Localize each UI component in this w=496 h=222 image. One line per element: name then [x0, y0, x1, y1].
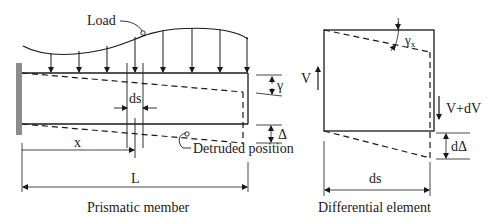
gamma-x-subscript: x: [411, 39, 416, 49]
gamma-x-angle-marker: [391, 18, 399, 51]
V-label: V: [301, 71, 311, 86]
delta-label: Δ: [278, 127, 287, 142]
element-undeformed: [324, 30, 434, 131]
beam-deflected-dashed: [22, 73, 243, 143]
V-dV-label: V+dV: [446, 101, 481, 116]
x-label: x: [74, 135, 81, 150]
deflected-position-label: Detruded position: [193, 141, 294, 156]
differential-element-caption: Differential element: [318, 200, 431, 215]
deflected-leader-ring: [185, 132, 189, 136]
ds-label-left: ds: [129, 91, 141, 106]
gamma-label: γ: [276, 78, 283, 93]
ds-element-lines: [127, 63, 143, 158]
load-leader-ring: [141, 31, 145, 35]
L-label: L: [131, 171, 140, 186]
d-delta-label: dΔ: [451, 139, 467, 154]
fixed-wall-support: [16, 63, 22, 135]
shear-deformation-diagram: Load ds γ Δ Detr: [0, 0, 496, 222]
differential-element-panel: γx V V+dV dΔ ds Differential element: [301, 18, 481, 215]
prismatic-member-caption: Prismatic member: [87, 200, 190, 215]
ds-label-right: ds: [369, 171, 381, 186]
load-leader: [120, 21, 142, 31]
element-deformed-dashed: [324, 30, 430, 158]
load-label: Load: [87, 13, 116, 28]
gamma-x-label: γx: [404, 32, 416, 49]
prismatic-member-panel: Load ds γ Δ Detr: [16, 13, 294, 215]
